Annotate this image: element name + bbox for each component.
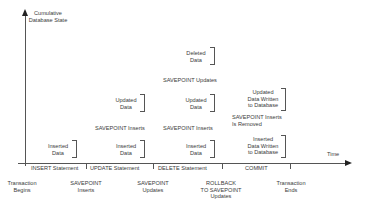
y-axis-label: Cumulative Database State xyxy=(28,10,68,23)
col2-updated-data: Updated Data xyxy=(112,97,140,110)
event-label-line: TO SAVEPOINT xyxy=(196,187,246,194)
y-axis xyxy=(25,14,26,166)
event-transaction-begins: Transaction Begins xyxy=(2,180,42,193)
event-label-line: Transaction xyxy=(271,180,311,187)
block-line: Data Written xyxy=(243,96,283,103)
block-line: to Database xyxy=(243,149,283,156)
event-label-line: Transaction xyxy=(2,180,42,187)
col2-savepoint-inserts: SAVEPOINT Inserts xyxy=(95,125,145,132)
col2-bracket-1 xyxy=(140,140,145,158)
block-line: Inserted xyxy=(112,143,140,150)
x-axis-label: Time xyxy=(327,151,339,158)
block-line: Data xyxy=(182,104,210,111)
col3-savepoint-updates: SAVEPOINT Updates xyxy=(163,77,217,84)
statement-update: UPDATE Statement xyxy=(90,165,139,172)
event-label-line: Inserts xyxy=(66,187,106,194)
col1-inserted-data: Inserted Data xyxy=(44,143,72,156)
statement-insert: INSERT Statement xyxy=(31,165,78,172)
col3-savepoint-inserts: SAVEPOINT Inserts xyxy=(163,125,213,132)
event-savepoint-updates: SAVEPOINT Updates xyxy=(133,180,173,193)
statement-commit: COMMIT xyxy=(245,165,268,172)
block-line: Deleted xyxy=(182,50,210,57)
block-line: to Database xyxy=(243,102,283,109)
divider-4 xyxy=(290,163,291,169)
col4-bracket-2 xyxy=(281,88,286,111)
col3-deleted-data: Deleted Data xyxy=(182,50,210,63)
block-line: Data Written xyxy=(243,143,283,150)
block-line: Data xyxy=(112,150,140,157)
block-line: Data xyxy=(44,150,72,157)
col4-updated-data-written: Updated Data Written to Database xyxy=(243,89,283,109)
y-axis-label-line1: Cumulative xyxy=(28,10,68,17)
event-label-line: SAVEPOINT xyxy=(133,180,173,187)
block-line: Data xyxy=(112,104,140,111)
col4-savepoint-removed: SAVEPOINT Inserts Is Removed xyxy=(232,114,282,127)
event-label-line: Updates xyxy=(196,193,246,200)
col2-inserted-data: Inserted Data xyxy=(112,143,140,156)
col3-inserted-data: Inserted Data xyxy=(182,143,210,156)
divider-3 xyxy=(222,163,223,169)
event-transaction-ends: Transaction Ends xyxy=(271,180,311,193)
block-line: Inserted xyxy=(44,143,72,150)
col3-bracket-3 xyxy=(210,47,215,65)
divider-2 xyxy=(153,163,154,169)
col1-bracket xyxy=(72,140,77,158)
statement-delete: DELETE Statement xyxy=(158,165,207,172)
col4-inserted-data-written: Inserted Data Written to Database xyxy=(243,136,283,156)
col3-bracket-1 xyxy=(210,140,215,158)
block-line: Updated xyxy=(243,89,283,96)
event-label-line: Ends xyxy=(271,187,311,194)
x-axis xyxy=(18,163,346,164)
note-line: Is Removed xyxy=(232,121,282,128)
event-savepoint-inserts: SAVEPOINT Inserts xyxy=(66,180,106,193)
col4-bracket-1 xyxy=(281,135,286,158)
event-label-line: SAVEPOINT xyxy=(66,180,106,187)
event-label-line: Updates xyxy=(133,187,173,194)
block-line: Inserted xyxy=(182,143,210,150)
note-line: SAVEPOINT Inserts xyxy=(232,114,282,121)
block-line: Data xyxy=(182,57,210,64)
block-line: Updated xyxy=(112,97,140,104)
col3-bracket-2 xyxy=(210,94,215,112)
block-line: Updated xyxy=(182,97,210,104)
col3-updated-data: Updated Data xyxy=(182,97,210,110)
block-line: Inserted xyxy=(243,136,283,143)
y-axis-label-line2: Database State xyxy=(28,17,68,24)
divider-1 xyxy=(86,163,87,169)
event-label-line: Begins xyxy=(2,187,42,194)
event-label-line: ROLLBACK xyxy=(196,180,246,187)
event-rollback-to-savepoint: ROLLBACK TO SAVEPOINT Updates xyxy=(196,180,246,200)
x-axis-arrow-icon xyxy=(345,160,352,166)
block-line: Data xyxy=(182,150,210,157)
col2-bracket-2 xyxy=(140,94,145,112)
